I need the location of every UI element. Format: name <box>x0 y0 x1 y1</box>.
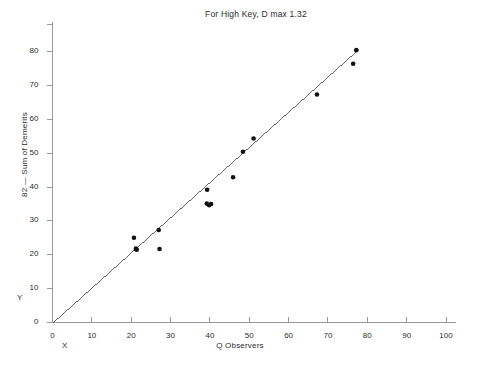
data-point <box>251 136 256 141</box>
data-point <box>205 187 210 192</box>
data-point <box>241 149 246 154</box>
data-point <box>231 175 236 180</box>
data-point <box>209 202 214 207</box>
fit-line <box>53 48 360 322</box>
scatter-chart-figure: For High Key, D max 1.32 82 — Sum of Dem… <box>0 0 482 365</box>
data-point <box>132 236 137 241</box>
regression-line <box>53 48 360 322</box>
axes <box>47 22 457 323</box>
plot-area <box>0 0 482 365</box>
data-point <box>157 247 162 252</box>
data-point <box>156 228 161 233</box>
data-point <box>134 247 139 252</box>
data-point <box>315 92 320 97</box>
data-point <box>354 48 359 53</box>
data-point <box>351 61 356 66</box>
